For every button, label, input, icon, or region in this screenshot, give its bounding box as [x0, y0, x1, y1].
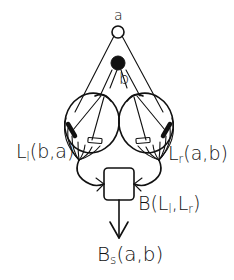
- right-eye-label: Lr(a,b): [168, 144, 228, 165]
- right-eye-label-main: L: [168, 142, 179, 164]
- left-eye-label-args: (b,a): [30, 140, 75, 162]
- left-eye-label: Ll(b,a): [16, 142, 74, 163]
- combiner-label: B(Ll,Lr): [138, 194, 200, 215]
- right-eye-label-args: (a,b): [183, 142, 228, 164]
- input-arrowheads: [96, 178, 142, 191]
- output-label: Bs(a,b): [97, 244, 163, 266]
- combiner-box: [104, 168, 134, 200]
- output-arrow: [110, 200, 128, 238]
- right-eye: [112, 87, 180, 185]
- point-a-marker: [112, 26, 124, 38]
- binocular-diagram: a b Ll(b,a) Lr(a,b) B(Ll,Lr) Bs(a,b): [0, 0, 234, 280]
- left-eye-label-main: L: [16, 140, 27, 162]
- point-b-label: b: [119, 71, 129, 87]
- output-label-args: (a,b): [116, 242, 163, 266]
- combiner-label-main: B: [138, 192, 150, 214]
- combiner-label-mid: ,L: [172, 192, 189, 214]
- point-b-marker: [111, 56, 125, 70]
- combiner-label-close: ): [193, 192, 200, 214]
- output-label-main: B: [97, 242, 110, 266]
- combiner-label-open: (L: [150, 192, 168, 214]
- point-a-label: a: [114, 8, 123, 22]
- left-eye: [58, 87, 126, 185]
